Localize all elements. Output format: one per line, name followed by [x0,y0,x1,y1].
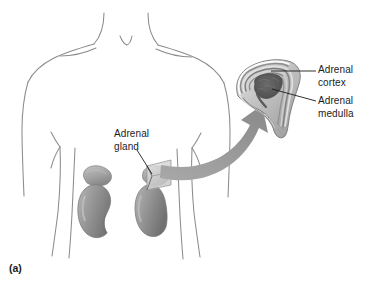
label-adrenal-cortex-line1: Adrenal [318,64,353,77]
adrenal-gland-cap-left [83,166,111,186]
left-kidney [78,166,112,238]
label-adrenal-gland-line1: Adrenal [114,128,149,141]
label-adrenal-medulla-line2: medulla [318,108,354,121]
figure-caption: (a) [9,262,22,274]
label-adrenal-gland: Adrenal gland [114,128,149,153]
label-adrenal-medulla-line1: Adrenal [318,95,354,108]
magnification-arrow [160,105,268,180]
anatomy-illustration [0,0,373,287]
label-adrenal-medulla: Adrenal medulla [318,95,354,120]
label-adrenal-cortex-line2: cortex [318,77,353,90]
label-adrenal-gland-line2: gland [114,141,149,154]
label-adrenal-cortex: Adrenal cortex [318,64,353,89]
figure-adrenal-gland: Adrenal cortex Adrenal medulla Adrenal g… [0,0,373,287]
